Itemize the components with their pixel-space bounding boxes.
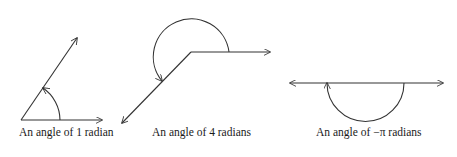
figure-4-radians — [122, 19, 270, 123]
terminal-ray — [122, 52, 191, 123]
figure-1-radian — [21, 38, 102, 120]
caption-4-radians: An angle of 4 radians — [152, 126, 251, 138]
angle-arc — [43, 88, 60, 120]
caption-minus-pi-radians: An angle of −π radians — [316, 126, 422, 138]
terminal-ray — [21, 38, 77, 120]
caption-1-radian: An angle of 1 radian — [19, 126, 114, 138]
angle-arc — [327, 83, 404, 122]
figure-minus-pi-radians — [290, 83, 443, 122]
angle-arc — [153, 19, 229, 81]
